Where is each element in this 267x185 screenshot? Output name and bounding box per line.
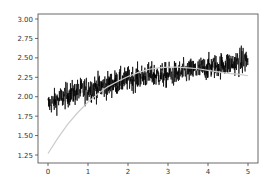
y-tick-label: 2.50 (17, 54, 33, 62)
x-tick-label: 0 (46, 168, 50, 176)
x-axis: 012345 (46, 163, 250, 176)
y-tick-label: 2.75 (17, 35, 33, 43)
y-tick-label: 1.50 (17, 132, 33, 140)
x-tick-label: 5 (246, 168, 250, 176)
y-axis: 1.251.501.752.002.252.502.753.00 (17, 16, 38, 160)
y-tick-label: 3.00 (17, 16, 33, 24)
chart: 1.251.501.752.002.252.502.753.00 012345 (0, 0, 267, 185)
x-tick-label: 2 (126, 168, 130, 176)
noisy-data-series (48, 46, 248, 116)
y-tick-label: 1.25 (17, 152, 33, 160)
y-tick-label: 1.75 (17, 113, 33, 121)
y-tick-label: 2.25 (17, 74, 33, 82)
plot-frame (38, 14, 258, 163)
x-tick-label: 1 (86, 168, 90, 176)
x-tick-label: 4 (206, 168, 211, 176)
noisy-data-line (48, 46, 248, 116)
y-tick-label: 2.00 (17, 93, 33, 101)
x-tick-label: 3 (166, 168, 170, 176)
